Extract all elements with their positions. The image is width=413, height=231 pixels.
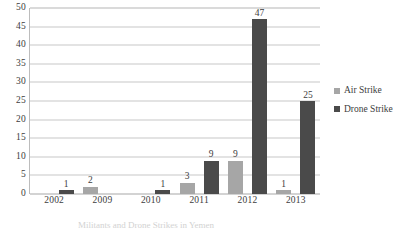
bar-air[interactable]: 2: [83, 187, 98, 194]
bar-slot: 1: [54, 8, 78, 194]
bar-value-label: 2: [88, 176, 93, 186]
chart-legend: Air StrikeDrone Strike: [334, 86, 393, 114]
bar-air[interactable]: 1: [276, 190, 291, 194]
x-axis-tick-label: 2002: [30, 196, 78, 206]
x-axis-tick-label: 2010: [127, 196, 175, 206]
bar-drone[interactable]: 1: [155, 190, 170, 194]
y-axis-tick-label: 45: [16, 22, 26, 32]
bar-drone[interactable]: 1: [59, 190, 74, 194]
bar-slot: 2: [78, 8, 102, 194]
legend-item[interactable]: Air Strike: [334, 86, 393, 96]
bar-value-label: 9: [233, 150, 238, 160]
bar-slot: [30, 8, 54, 194]
bar-drone[interactable]: 9: [204, 161, 219, 194]
legend-item[interactable]: Drone Strike: [334, 105, 393, 115]
bar-air[interactable]: 3: [180, 183, 195, 194]
y-axis-tick-label: 50: [16, 3, 26, 13]
x-axis-tick-label: 2011: [175, 196, 223, 206]
y-axis-tick-label: 40: [16, 40, 26, 50]
x-axis-labels: 200220092010201120122013: [30, 196, 320, 206]
bar-slot: 25: [296, 8, 320, 194]
bar-slot: 9: [199, 8, 223, 194]
y-axis-tick-label: 35: [16, 59, 26, 69]
bar-group: 39: [175, 8, 223, 194]
x-axis-tick-label: 2012: [223, 196, 271, 206]
x-axis-tick-label: 2009: [78, 196, 126, 206]
chart-caption: Militants and Drone Strikes in Yemen: [78, 221, 338, 231]
bar-value-label: 9: [209, 150, 214, 160]
y-axis-tick-label: 15: [16, 133, 26, 143]
bar-slot: 1: [151, 8, 175, 194]
y-axis-tick-label: 0: [21, 189, 26, 199]
bar-value-label: 1: [161, 180, 166, 190]
bar-air[interactable]: 9: [228, 161, 243, 194]
bar-drone[interactable]: 25: [300, 101, 315, 194]
legend-swatch-icon: [334, 106, 340, 112]
bar-group: 2: [78, 8, 126, 194]
bar-slot: 9: [223, 8, 247, 194]
bar-slot: [102, 8, 126, 194]
bar-value-label: 1: [281, 180, 286, 190]
y-axis-tick-label: 25: [16, 96, 26, 106]
bar-slot: 1: [272, 8, 296, 194]
bar-group: 1: [127, 8, 175, 194]
bar-slot: [127, 8, 151, 194]
bar-group: 125: [272, 8, 320, 194]
bar-group: 947: [223, 8, 271, 194]
x-axis-tick-label: 2013: [272, 196, 320, 206]
bar-slot: 3: [175, 8, 199, 194]
bar-drone[interactable]: 47: [252, 19, 267, 194]
bar-group: 1: [30, 8, 78, 194]
bar-value-label: 25: [303, 91, 313, 101]
bar-chart: 50454035302520151050 12139947125 2002200…: [0, 0, 413, 231]
y-axis-tick-label: 30: [16, 78, 26, 88]
bar-value-label: 3: [185, 172, 190, 182]
bar-value-label: 47: [255, 9, 265, 19]
y-axis-tick-label: 5: [21, 171, 26, 181]
plot-area: 50454035302520151050 12139947125: [30, 8, 320, 194]
bar-groups: 12139947125: [30, 8, 320, 194]
legend-label: Drone Strike: [344, 105, 393, 115]
y-axis-tick-label: 20: [16, 115, 26, 125]
legend-label: Air Strike: [344, 86, 382, 96]
legend-swatch-icon: [334, 88, 340, 94]
y-axis-tick-label: 10: [16, 152, 26, 162]
bar-value-label: 1: [64, 180, 69, 190]
bar-slot: 47: [247, 8, 271, 194]
